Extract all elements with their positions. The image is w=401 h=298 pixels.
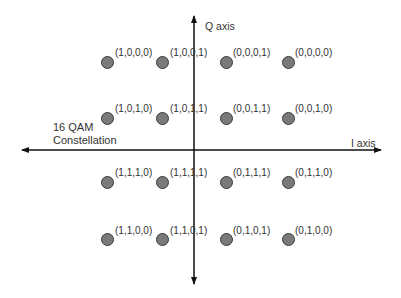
point-label: (0,0,1,1) bbox=[233, 104, 270, 114]
constellation-point bbox=[282, 112, 295, 125]
constellation-point bbox=[156, 176, 169, 189]
constellation-point bbox=[101, 176, 114, 189]
constellation-point bbox=[101, 233, 114, 246]
constellation-point bbox=[101, 112, 114, 125]
title-line-2: Constellation bbox=[53, 134, 117, 147]
constellation-point bbox=[220, 176, 233, 189]
point-label: (1,0,1,1) bbox=[170, 104, 207, 114]
point-label: (0,1,1,1) bbox=[233, 168, 270, 178]
point-label: (1,0,0,1) bbox=[170, 48, 207, 58]
constellation-point bbox=[282, 233, 295, 246]
constellation-point bbox=[282, 176, 295, 189]
point-label: (1,1,1,0) bbox=[115, 168, 152, 178]
constellation-point bbox=[156, 233, 169, 246]
point-label: (1,0,1,0) bbox=[115, 104, 152, 114]
qam-constellation-diagram: Q axis I axis 16 QAM Constellation (1,0,… bbox=[0, 0, 401, 298]
constellation-point bbox=[220, 56, 233, 69]
point-label: (0,1,0,0) bbox=[295, 226, 332, 236]
point-label: (1,1,1,1) bbox=[170, 168, 207, 178]
point-label: (0,1,1,0) bbox=[295, 168, 332, 178]
i-axis-label: I axis bbox=[351, 138, 376, 149]
constellation-point bbox=[156, 112, 169, 125]
point-label: (1,1,0,1) bbox=[170, 226, 207, 236]
point-label: (1,0,0,0) bbox=[115, 48, 152, 58]
constellation-point bbox=[282, 56, 295, 69]
constellation-point bbox=[220, 233, 233, 246]
constellation-point bbox=[220, 112, 233, 125]
q-axis-label: Q axis bbox=[205, 21, 235, 32]
constellation-point bbox=[156, 56, 169, 69]
point-label: (0,0,0,1) bbox=[233, 48, 270, 58]
point-label: (0,0,0,0) bbox=[295, 48, 332, 58]
constellation-point bbox=[101, 56, 114, 69]
axes bbox=[0, 0, 401, 298]
point-label: (1,1,0,0) bbox=[115, 226, 152, 236]
point-label: (0,0,1,0) bbox=[295, 104, 332, 114]
point-label: (0,1,0,1) bbox=[233, 226, 270, 236]
